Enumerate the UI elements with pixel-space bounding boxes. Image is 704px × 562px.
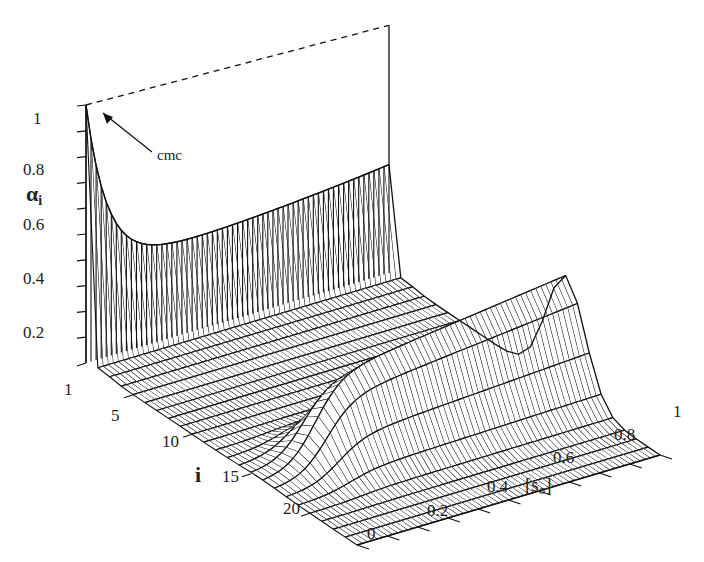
i-tick-label: 15	[222, 467, 239, 487]
s-axis-title: [so]	[525, 474, 552, 498]
z-tick-label: 0.6	[23, 215, 44, 235]
cmc-annotation-arrow	[103, 113, 152, 152]
z-tick	[77, 157, 86, 158]
s-tick-label: 1	[673, 402, 682, 422]
i-tick	[183, 434, 192, 437]
s-tick-label: 0	[367, 524, 376, 544]
wireframe-surface	[86, 105, 660, 545]
z-tick	[77, 337, 86, 338]
s-tick	[357, 545, 369, 549]
z-tick	[77, 131, 86, 132]
s-tick	[418, 527, 430, 531]
cmc-annotation-label: cmc	[157, 147, 182, 164]
arrow-head-icon	[103, 113, 113, 124]
i-tick	[301, 513, 310, 516]
s-tick	[569, 482, 581, 486]
s-tick-label: 0.8	[614, 425, 635, 445]
surface-plot	[0, 0, 704, 562]
z-tick-label: 0.8	[23, 160, 44, 180]
i-tick	[124, 395, 133, 398]
z-tick	[77, 105, 86, 106]
s-tick	[387, 536, 399, 540]
s-tick	[630, 464, 642, 468]
z-tick	[77, 311, 86, 312]
i-tick	[77, 363, 86, 366]
z-tick	[77, 182, 86, 183]
s-tick	[509, 500, 521, 504]
z-tick-label: 0.2	[23, 323, 44, 343]
s-tick	[448, 518, 460, 522]
z-tick	[77, 234, 86, 235]
z-tick-label: 1	[33, 109, 42, 129]
z-axis-title: αi	[26, 181, 42, 209]
s-tick-label: 0.6	[553, 448, 574, 468]
s-tick	[599, 473, 611, 477]
z-tick	[77, 260, 86, 261]
i-tick-label: 20	[283, 499, 300, 519]
top-dashed-edge	[86, 25, 389, 105]
z-tick	[77, 286, 86, 287]
i-tick	[242, 474, 251, 477]
i-tick-label: 10	[162, 432, 179, 452]
s-tick-label: 0.4	[487, 477, 508, 497]
s-tick-label: 0.2	[427, 501, 448, 521]
s-tick	[660, 455, 672, 459]
z-tick-label: 0.4	[23, 269, 44, 289]
i-tick-label: 1	[64, 380, 73, 400]
z-tick	[77, 208, 86, 209]
i-tick-label: 5	[111, 406, 120, 426]
i-axis-title: i	[195, 462, 201, 488]
s-tick	[478, 509, 490, 513]
